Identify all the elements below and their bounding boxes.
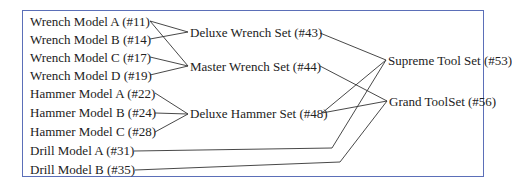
component-wrench-d: Wrench Model D (#19)	[30, 68, 152, 83]
component-hammer-b: Hammer Model B (#24)	[30, 105, 156, 120]
component-hammer-a: Hammer Model A (#22)	[30, 86, 155, 101]
component-wrench-b: Wrench Model B (#14)	[30, 32, 151, 47]
product-grand-toolset: Grand ToolSet (#56)	[389, 94, 496, 109]
subassembly-master-wrench-set: Master Wrench Set (#44)	[190, 59, 321, 74]
component-wrench-a: Wrench Model A (#11)	[30, 14, 150, 29]
subassembly-deluxe-hammer-set: Deluxe Hammer Set (#48)	[190, 106, 328, 121]
component-drill-b: Drill Model B (#35)	[30, 162, 135, 177]
component-hammer-c: Hammer Model C (#28)	[30, 124, 156, 139]
product-supreme-tool-set: Supreme Tool Set (#53)	[388, 53, 512, 68]
subassembly-deluxe-wrench-set: Deluxe Wrench Set (#43)	[190, 25, 322, 40]
component-wrench-c: Wrench Model C (#17)	[30, 50, 151, 65]
component-drill-a: Drill Model A (#31)	[30, 143, 134, 158]
